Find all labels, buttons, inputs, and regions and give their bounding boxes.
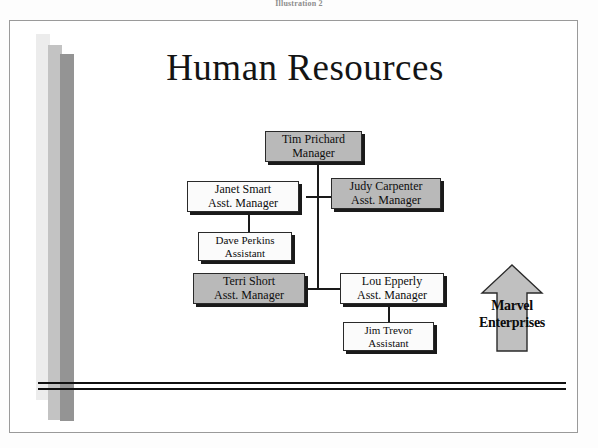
callout-label-line2: Enterprises bbox=[466, 315, 558, 332]
org-node-role: Manager bbox=[292, 147, 335, 160]
org-node-role: Assistant bbox=[368, 337, 408, 349]
org-node-role: Asst. Manager bbox=[351, 194, 421, 207]
connector-branch-lou-epperly bbox=[317, 288, 340, 290]
org-node-tim-prichard[interactable]: Tim Prichard Manager bbox=[265, 131, 362, 162]
callout-label-line1: Marvel bbox=[466, 298, 558, 315]
horizontal-rule-bottom bbox=[38, 388, 566, 390]
org-node-terri-short[interactable]: Terri Short Asst. Manager bbox=[193, 273, 305, 304]
connector-lou-to-jim-vertical bbox=[388, 305, 390, 323]
horizontal-rule-top bbox=[38, 382, 566, 384]
connector-janet-to-dave-vertical bbox=[248, 212, 250, 232]
org-node-name: Tim Prichard bbox=[282, 133, 345, 146]
org-node-dave-perkins[interactable]: Dave Perkins Assistant bbox=[198, 232, 292, 261]
org-node-jim-trevor[interactable]: Jim Trevor Assistant bbox=[343, 322, 434, 351]
page-title: Human Resources bbox=[120, 46, 490, 89]
org-node-name: Dave Perkins bbox=[216, 234, 275, 246]
org-node-name: Terri Short bbox=[223, 275, 275, 288]
org-node-role: Assistant bbox=[225, 247, 265, 259]
connector-branch-judy-carpenter bbox=[317, 196, 331, 198]
org-node-name: Lou Epperly bbox=[362, 275, 422, 288]
slide-page: Illustration 2 Human Resources Tim Prich… bbox=[0, 0, 598, 448]
org-node-judy-carpenter[interactable]: Judy Carpenter Asst. Manager bbox=[331, 178, 441, 209]
org-node-name: Judy Carpenter bbox=[350, 180, 423, 193]
org-node-role: Asst. Manager bbox=[214, 289, 284, 302]
callout-label: Marvel Enterprises bbox=[466, 298, 558, 331]
org-node-name: Jim Trevor bbox=[365, 324, 413, 336]
org-node-lou-epperly[interactable]: Lou Epperly Asst. Manager bbox=[340, 273, 444, 304]
decorative-bar-dark bbox=[60, 54, 74, 421]
org-node-role: Asst. Manager bbox=[208, 197, 278, 210]
org-node-name: Janet Smart bbox=[215, 183, 271, 196]
figure-caption: Illustration 2 bbox=[0, 0, 598, 8]
org-node-role: Asst. Manager bbox=[357, 289, 427, 302]
org-node-janet-smart[interactable]: Janet Smart Asst. Manager bbox=[187, 181, 299, 212]
connector-trunk-vertical bbox=[317, 162, 319, 289]
